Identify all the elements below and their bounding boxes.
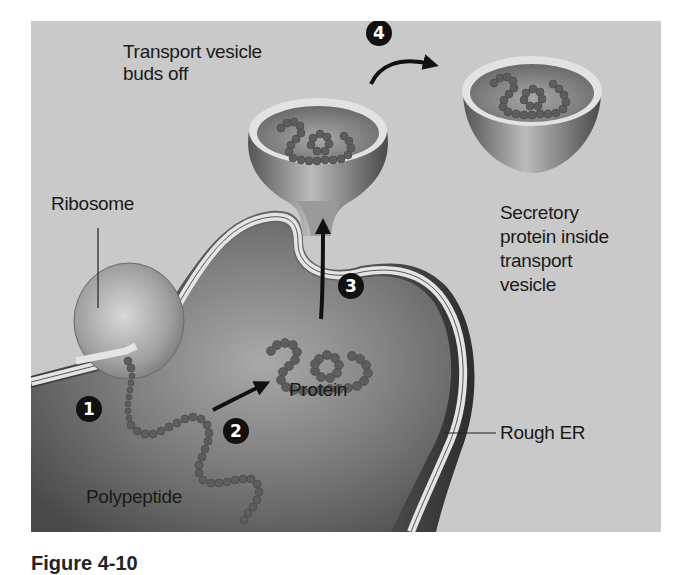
arrow-step-4 <box>371 61 431 84</box>
label-ribosome: Ribosome <box>51 193 134 215</box>
step-badge-1: 1 <box>76 396 102 422</box>
label-transport-vesicle-buds-off: Transport vesicle buds off <box>123 41 262 85</box>
figure-caption: Figure 4-10 <box>31 552 138 575</box>
label-polypeptide: Polypeptide <box>86 486 182 508</box>
step-badge-4: 4 <box>366 21 392 46</box>
arrow-step-3 <box>321 226 323 319</box>
diagram-panel: Transport vesicle buds off Ribosome Secr… <box>31 21 661 532</box>
label-rough-er: Rough ER <box>500 422 585 444</box>
label-secretory-protein: Secretory protein inside transport vesic… <box>500 201 609 297</box>
step-badge-2: 2 <box>223 418 249 444</box>
label-protein: Protein <box>289 379 347 401</box>
step-badge-3: 3 <box>338 273 364 299</box>
